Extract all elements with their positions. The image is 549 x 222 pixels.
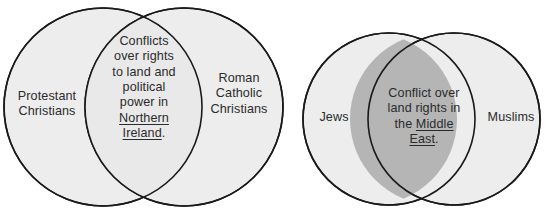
- right-venn-group: [303, 33, 540, 205]
- left-venn-group: [4, 8, 283, 206]
- venn-diagram-canvas: Protestant Christians Roman Catholic Chr…: [0, 0, 549, 222]
- venn-shapes: [0, 0, 549, 222]
